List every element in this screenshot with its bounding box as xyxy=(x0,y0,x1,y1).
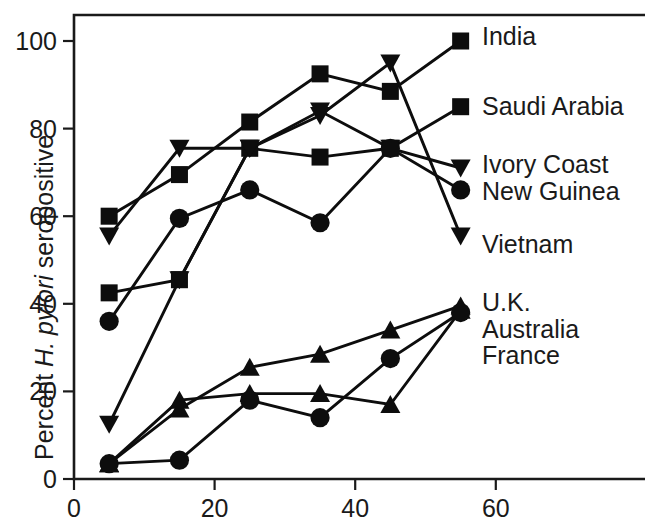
data-point-marker-circle xyxy=(100,454,119,473)
series-line xyxy=(109,313,461,464)
series-line xyxy=(109,310,461,463)
x-axis-tick-label: 60 xyxy=(482,494,510,522)
series-vietnam xyxy=(99,54,471,433)
data-point-marker-circle xyxy=(381,349,400,368)
data-point-marker-triangle-down xyxy=(451,160,471,178)
chart-figure: 0204060801000204060Age (yr)IndiaSaudi Ar… xyxy=(0,0,645,527)
legend-label-france: France xyxy=(482,341,560,369)
data-point-marker-triangle-up xyxy=(380,321,400,339)
legend-label-new-guinea: New Guinea xyxy=(482,177,620,205)
series-u-k xyxy=(99,296,471,472)
data-point-marker-circle xyxy=(170,451,189,470)
y-axis-title-italic: H. pylori xyxy=(30,275,58,367)
seroprevalence-line-chart: 0204060801000204060Age (yr)IndiaSaudi Ar… xyxy=(0,0,645,527)
x-axis-tick-label: 40 xyxy=(341,494,369,522)
data-point-marker-circle xyxy=(310,408,329,427)
x-axis-tick-label: 20 xyxy=(201,494,229,522)
data-point-marker-circle xyxy=(170,209,189,228)
legend-label-australia: Australia xyxy=(482,315,579,343)
data-point-marker-circle xyxy=(240,391,259,410)
series-line xyxy=(109,148,461,321)
data-point-marker-circle xyxy=(451,303,470,322)
series-line xyxy=(109,111,461,236)
data-point-marker-circle xyxy=(310,213,329,232)
x-axis-tick-label: 0 xyxy=(67,494,81,522)
data-point-marker-triangle-up xyxy=(310,345,330,363)
legend-label-ivory-coast: Ivory Coast xyxy=(482,150,608,178)
data-point-marker-square xyxy=(101,284,118,301)
y-axis-title-pre: Percent xyxy=(30,367,58,460)
y-axis-title: Percent H. pylori seropositive xyxy=(30,135,59,460)
data-point-marker-square xyxy=(241,114,258,131)
data-point-marker-square xyxy=(452,33,469,50)
data-point-marker-circle xyxy=(100,312,119,331)
y-axis-title-container: Percent H. pylori seropositive xyxy=(0,0,40,527)
data-point-marker-triangle-down xyxy=(99,416,119,434)
y-axis-title-post: seropositive xyxy=(30,135,58,275)
data-point-marker-circle xyxy=(381,139,400,158)
data-point-marker-circle xyxy=(240,180,259,199)
series-line xyxy=(109,306,461,464)
series-new-guinea xyxy=(100,139,471,331)
legend-label-vietnam: Vietnam xyxy=(482,230,573,258)
data-point-marker-triangle-down xyxy=(451,227,471,245)
data-point-marker-square xyxy=(312,149,329,166)
data-point-marker-square xyxy=(452,98,469,115)
series-australia xyxy=(99,301,471,472)
y-axis-tick-label: 0 xyxy=(43,465,57,493)
data-point-marker-triangle-down xyxy=(99,227,119,245)
data-point-marker-square xyxy=(101,208,118,225)
data-point-marker-circle xyxy=(451,180,470,199)
data-point-marker-square xyxy=(312,65,329,82)
series-line xyxy=(109,107,461,293)
legend-label-u-k: U.K. xyxy=(482,288,531,316)
legend-label-saudi-arabia: Saudi Arabia xyxy=(482,92,624,120)
legend-label-india: India xyxy=(482,22,536,50)
data-point-marker-square xyxy=(171,166,188,183)
data-point-marker-square xyxy=(382,83,399,100)
